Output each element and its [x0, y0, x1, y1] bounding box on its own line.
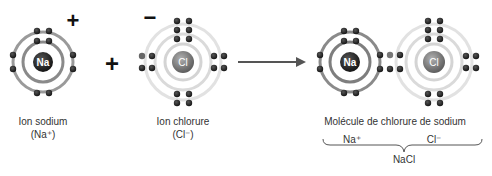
sodium-ion: Na +	[10, 8, 80, 96]
reaction-arrow	[238, 57, 306, 67]
chloride-ion: Cl −	[139, 5, 227, 106]
molecule-formula: NaCl	[384, 153, 424, 166]
mol-cl-symbol: Cl	[429, 57, 438, 68]
plus-sign: +	[105, 50, 119, 77]
molecule-label: Molécule de chlorure de sodium	[310, 115, 480, 128]
sodium-ion-label: Ion sodium	[3, 115, 83, 128]
cl-charge: −	[144, 5, 157, 30]
mol-na-symbol: Na	[344, 57, 357, 68]
chloride-ion-label: Ion chlorure	[143, 115, 223, 128]
na-symbol: Na	[37, 57, 50, 68]
molecule-na-part: Na⁺	[332, 133, 372, 146]
ionic-bond-diagram: Na + + Cl −	[0, 0, 492, 176]
molecule-cl-part: Cl⁻	[414, 133, 454, 146]
cl-symbol: Cl	[178, 57, 187, 68]
na-charge: +	[67, 8, 80, 33]
nacl-molecule: Na Cl	[317, 18, 479, 106]
sodium-ion-formula: (Na⁺)	[3, 128, 83, 141]
chloride-ion-formula: (Cl⁻)	[143, 128, 223, 141]
